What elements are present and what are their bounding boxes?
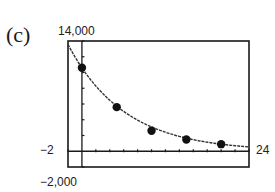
data-point — [147, 127, 155, 135]
model-curve — [68, 44, 249, 146]
chart-plot — [0, 0, 275, 192]
data-point — [217, 140, 225, 148]
data-points — [78, 64, 226, 149]
data-point — [182, 135, 190, 143]
data-point — [78, 64, 86, 72]
data-point — [113, 103, 121, 111]
